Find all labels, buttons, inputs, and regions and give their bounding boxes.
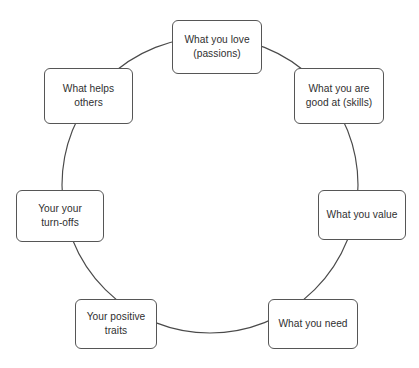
- node-passions-label: What you love (passions): [184, 33, 249, 61]
- node-passions[interactable]: What you love (passions): [172, 20, 262, 74]
- node-turn-offs-label: Your your turn-offs: [38, 202, 82, 230]
- node-positive-traits[interactable]: Your positive traits: [75, 299, 157, 349]
- diagram-canvas: What you love (passions) What you are go…: [0, 0, 419, 368]
- node-positive-traits-label: Your positive traits: [87, 310, 146, 338]
- node-skills[interactable]: What you are good at (skills): [294, 68, 384, 124]
- node-values-label: What you value: [327, 208, 398, 222]
- node-skills-label: What you are good at (skills): [306, 82, 373, 110]
- node-helps-others-label: What helps others: [63, 82, 114, 110]
- node-helps-others[interactable]: What helps others: [44, 68, 133, 124]
- node-needs[interactable]: What you need: [268, 299, 358, 349]
- node-turn-offs[interactable]: Your your turn-offs: [16, 190, 104, 242]
- node-needs-label: What you need: [278, 317, 347, 331]
- node-values[interactable]: What you value: [318, 190, 406, 240]
